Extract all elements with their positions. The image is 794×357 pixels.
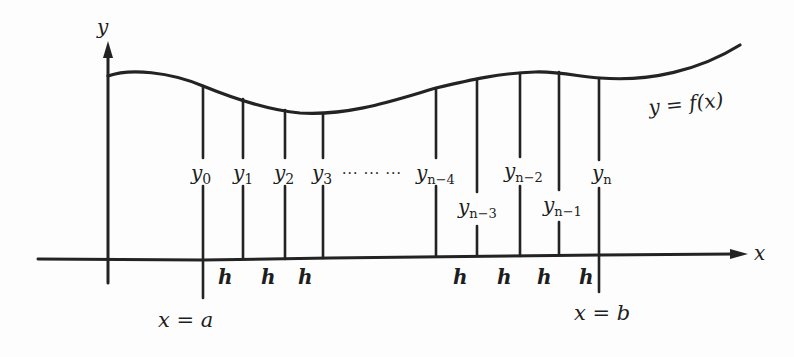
y-axis-arrow-icon [103,41,113,58]
ordinate-ellipsis: ··· ··· ··· [342,165,402,181]
ordinate-label-yn: yn [591,161,612,187]
lower-bound-label: x = a [158,308,213,332]
y-axis: y [96,15,113,283]
step-labels: h h h h h h h [218,265,594,289]
step-label: h [218,265,233,289]
ordinate-label-y0: y0 [190,161,211,187]
curve-label: y = f(x) [646,88,724,120]
x-axis: x [38,241,765,265]
step-label: h [537,265,552,289]
ordinate-label-y1: y1 [232,161,253,187]
step-label: h [261,265,276,289]
step-label: h [579,265,594,289]
ordinate-label-yn-4: yn−4 [415,161,455,187]
upper-bound-label: x = b [574,301,630,325]
integration-diagram: y x y = f(x) [0,0,794,357]
ordinate-label-yn-1: yn−1 [542,193,582,219]
ordinate-label-yn-2: yn−2 [503,159,543,185]
ordinate-label-y3: y3 [311,161,332,187]
step-label: h [453,265,468,289]
y-axis-label: y [96,15,109,39]
ordinate-label-y2: y2 [273,161,294,187]
step-label: h [497,265,512,289]
ordinate-label-yn-3: yn−3 [457,195,497,221]
x-axis-arrow-icon [730,249,748,259]
x-axis-label: x [754,241,765,265]
ordinate-labels: y0 y1 y2 y3 ··· ··· ··· yn−4 yn−3 yn−2 y… [190,159,612,221]
step-label: h [298,265,313,289]
